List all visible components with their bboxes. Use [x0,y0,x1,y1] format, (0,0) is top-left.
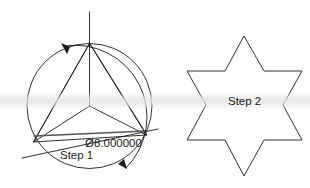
step-1-label: Step 1 [60,150,93,162]
radius-to-left-vertex [34,106,90,142]
technical-drawing-canvas: Step 1 Ø8.000000 Step 2 [0,0,310,188]
step-2-label: Step 2 [228,96,261,108]
chord-left-vertex-to-top [34,44,90,143]
chord-right-vertex-to-top [90,44,147,136]
arrow-head-upper-left [61,43,70,54]
drawing-surface [0,0,310,188]
diameter-dimension-label: Ø8.000000 [85,138,142,150]
